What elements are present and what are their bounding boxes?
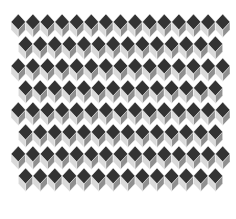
cube-tiling bbox=[0, 0, 236, 219]
pattern-canvas bbox=[0, 0, 236, 219]
